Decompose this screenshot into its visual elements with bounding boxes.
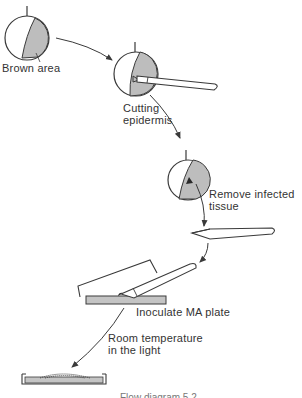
figure-caption: Flow diagram 5.2: [120, 391, 197, 398]
arrow-4: [200, 243, 208, 262]
label-inoculate-ma-plate: Inoculate MA plate: [136, 306, 230, 319]
arrow-1: [56, 38, 112, 60]
apple-remove-tissue: [168, 150, 210, 200]
label-remove-tissue-2: tissue: [209, 200, 239, 213]
label-brown-area: Brown area: [2, 62, 60, 75]
petri-dish-inoculate: [78, 260, 196, 304]
label-cutting-epidermis-2: epidermis: [123, 114, 173, 127]
apple-cutting: [114, 42, 217, 96]
apple-brown-area: [5, 6, 49, 62]
needle-tool: [192, 228, 275, 239]
label-room-temperature-2: in the light: [108, 344, 161, 357]
petri-dish-incubated: [22, 374, 106, 384]
